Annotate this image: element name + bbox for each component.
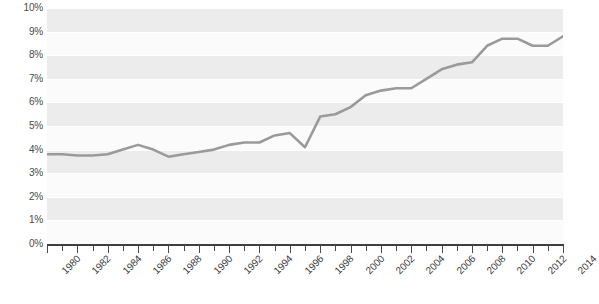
x-axis-tick-mark: [381, 246, 382, 253]
x-axis-tick-mark: [244, 246, 245, 251]
x-axis-tick-mark: [396, 246, 397, 251]
x-axis-tick-label: 1988: [181, 253, 204, 276]
x-axis-tick-label: 1996: [302, 253, 325, 276]
x-axis-tick-mark: [77, 246, 78, 253]
y-axis-tick-label: 6%: [0, 97, 43, 107]
y-axis-tick-label: 3%: [0, 168, 43, 178]
x-axis-tick-mark: [47, 246, 48, 253]
x-axis-tick-mark: [275, 246, 276, 251]
x-axis-tick-mark: [168, 246, 169, 253]
x-axis-tick-label: 2000: [363, 253, 386, 276]
y-axis-tick-label: 0%: [0, 239, 43, 249]
x-axis-tick-label: 1980: [59, 253, 82, 276]
x-axis-tick-mark: [487, 246, 488, 251]
x-axis-tick-mark: [290, 246, 291, 253]
y-axis-tick-label: 9%: [0, 27, 43, 37]
x-axis-tick-mark: [93, 246, 94, 251]
y-axis-tick-labels: 0%1%2%3%4%5%6%7%8%9%10%: [0, 0, 43, 252]
x-axis-tick-mark: [472, 246, 473, 253]
x-axis-tick-mark: [411, 246, 412, 253]
x-axis-tick-mark: [108, 246, 109, 253]
x-axis-tick-label: 1982: [90, 253, 113, 276]
x-axis-tick-labels: 1980198219841986198819901992199419961998…: [47, 253, 564, 304]
x-axis-tick-mark: [259, 246, 260, 253]
x-axis-tick-mark: [563, 246, 564, 253]
x-axis-tick-mark: [442, 246, 443, 253]
x-axis-tick-label: 2004: [424, 253, 447, 276]
y-axis-tick-label: 4%: [0, 145, 43, 155]
y-axis-tick-label: 7%: [0, 74, 43, 84]
x-axis-tick-mark: [366, 246, 367, 251]
x-axis-tick-mark: [305, 246, 306, 251]
x-axis-tick-marks: [47, 246, 564, 253]
x-axis-tick-mark: [214, 246, 215, 251]
x-axis-tick-label: 2002: [393, 253, 416, 276]
x-axis-tick-mark: [123, 246, 124, 251]
x-axis-tick-label: 1992: [242, 253, 265, 276]
x-axis-tick-mark: [62, 246, 63, 251]
x-axis-tick-label: 1990: [211, 253, 234, 276]
x-axis-tick-label: 1994: [272, 253, 295, 276]
x-axis-tick-label: 2008: [484, 253, 507, 276]
x-axis-tick-label: 2012: [545, 253, 568, 276]
x-axis-tick-label: 2010: [515, 253, 538, 276]
x-axis-tick-mark: [184, 246, 185, 251]
plot-area: [47, 8, 563, 244]
x-axis-tick-mark: [502, 246, 503, 253]
x-axis-tick-label: 1986: [150, 253, 173, 276]
x-axis-tick-mark: [335, 246, 336, 251]
y-axis-tick-label: 2%: [0, 192, 43, 202]
x-axis-tick-mark: [351, 246, 352, 253]
x-axis-tick-label: 1984: [120, 253, 143, 276]
y-axis-tick-label: 5%: [0, 121, 43, 131]
x-axis-tick-mark: [138, 246, 139, 253]
data-series-line: [47, 8, 563, 244]
x-axis-tick-mark: [153, 246, 154, 251]
x-axis-tick-mark: [229, 246, 230, 253]
x-axis-tick-label: 2006: [454, 253, 477, 276]
x-axis-tick-mark: [517, 246, 518, 251]
x-axis-tick-mark: [457, 246, 458, 251]
y-axis-tick-label: 8%: [0, 50, 43, 60]
x-axis-tick-mark: [426, 246, 427, 251]
y-axis-tick-label: 10%: [0, 3, 43, 13]
x-axis-tick-mark: [199, 246, 200, 253]
x-axis-tick-mark: [320, 246, 321, 253]
x-axis-tick-label: 2014: [575, 253, 598, 276]
x-axis-tick-mark: [548, 246, 549, 251]
x-axis-tick-mark: [533, 246, 534, 253]
x-axis-tick-label: 1998: [333, 253, 356, 276]
y-axis-tick-label: 1%: [0, 215, 43, 225]
